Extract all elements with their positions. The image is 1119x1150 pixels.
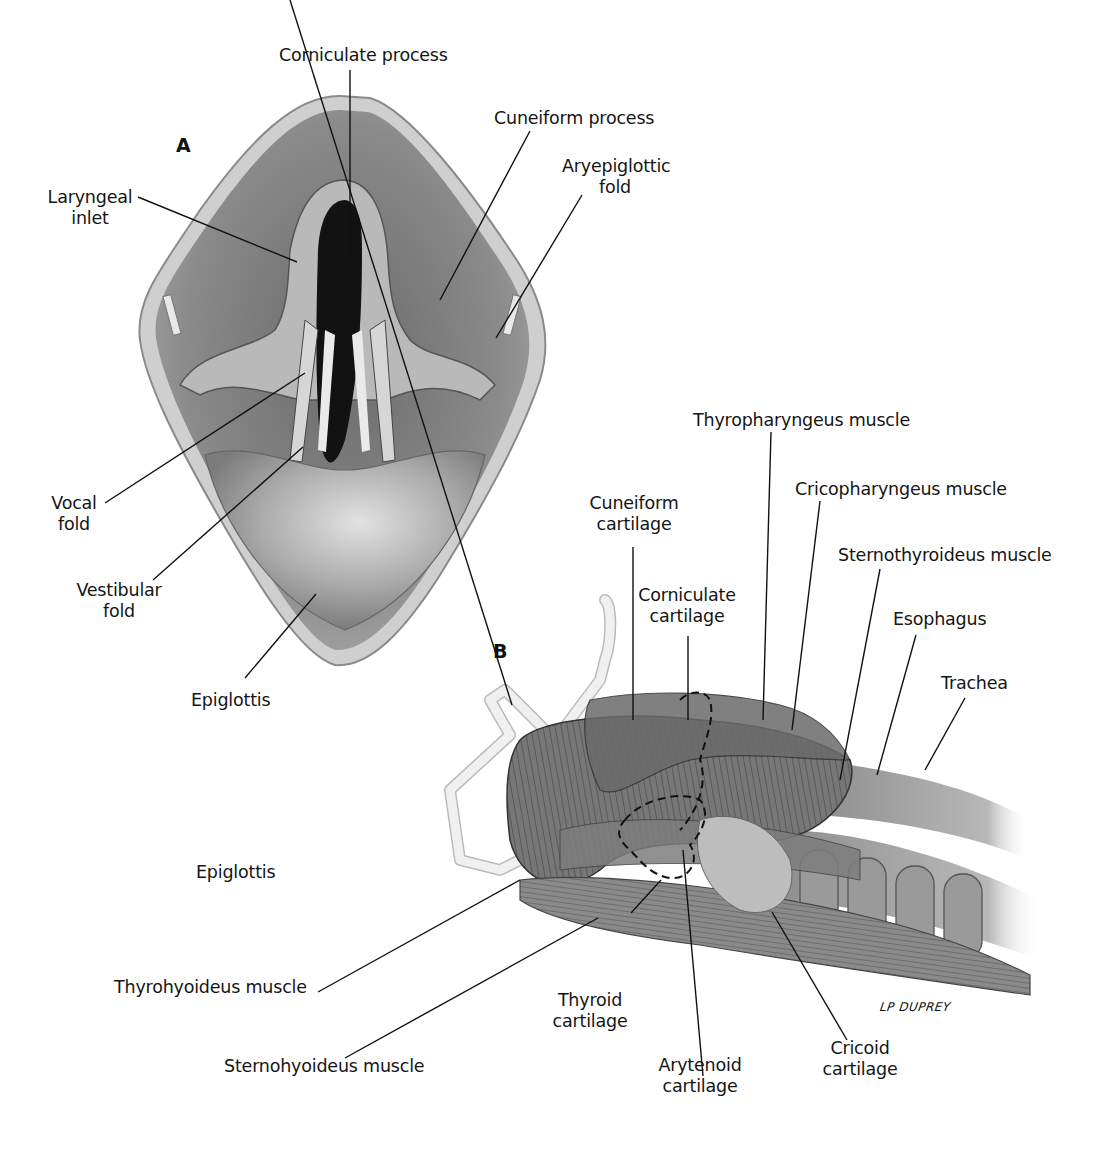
label-vocal-fold-line1: Vocal [46, 493, 102, 514]
label-epiglottis-a: Epiglottis [191, 690, 270, 711]
label-corniculate-cartilage: Corniculate cartilage [631, 585, 743, 627]
label-aryepiglottic-fold: Aryepiglottic fold [562, 156, 668, 198]
label-corniculate-process: Corniculate process [279, 45, 448, 66]
panel-a-drawing [139, 96, 545, 665]
label-laryngeal-inlet-line1: Laryngeal [46, 187, 134, 208]
label-epiglottis-b: Epiglottis [196, 862, 275, 883]
label-cricoid-cartilage-line2: cartilage [820, 1059, 900, 1080]
panel-b-drawing [450, 600, 1040, 995]
label-arytenoid-cartilage: Arytenoid cartilage [650, 1055, 750, 1097]
label-cuneiform-process: Cuneiform process [494, 108, 654, 129]
label-vocal-fold-line2: fold [46, 514, 102, 535]
label-vestibular-fold-line2: fold [73, 601, 165, 622]
label-thyroid-cartilage-line2: cartilage [550, 1011, 630, 1032]
label-sternohyoideus-muscle: Sternohyoideus muscle [224, 1056, 424, 1077]
label-cricopharyngeus-muscle: Cricopharyngeus muscle [795, 479, 1007, 500]
label-vestibular-fold: Vestibular fold [73, 580, 165, 622]
label-vestibular-fold-line1: Vestibular [73, 580, 165, 601]
panel-a-letter: A [176, 134, 191, 156]
label-aryepiglottic-fold-line2: fold [562, 177, 668, 198]
label-aryepiglottic-fold-line1: Aryepiglottic [562, 156, 668, 177]
label-corniculate-cartilage-line2: cartilage [631, 606, 743, 627]
label-thyroid-cartilage-line1: Thyroid [550, 990, 630, 1011]
label-corniculate-cartilage-line1: Corniculate [631, 585, 743, 606]
label-vocal-fold: Vocal fold [46, 493, 102, 535]
label-cricoid-cartilage-line1: Cricoid [820, 1038, 900, 1059]
label-cuneiform-cartilage: Cuneiform cartilage [584, 493, 684, 535]
label-sternothyroideus-muscle: Sternothyroideus muscle [838, 545, 1052, 566]
label-arytenoid-cartilage-line2: cartilage [650, 1076, 750, 1097]
label-cricoid-cartilage: Cricoid cartilage [820, 1038, 900, 1080]
label-thyroid-cartilage: Thyroid cartilage [550, 990, 630, 1032]
label-arytenoid-cartilage-line1: Arytenoid [650, 1055, 750, 1076]
label-cuneiform-cartilage-line1: Cuneiform [584, 493, 684, 514]
label-trachea: Trachea [941, 673, 1008, 694]
label-thyrohyoideus-muscle: Thyrohyoideus muscle [114, 977, 307, 998]
panel-b-letter: B [493, 640, 507, 662]
label-laryngeal-inlet-line2: inlet [46, 208, 134, 229]
artist-signature: LP DUPREY [879, 1000, 952, 1014]
label-esophagus: Esophagus [893, 609, 986, 630]
label-cuneiform-cartilage-line2: cartilage [584, 514, 684, 535]
label-thyropharyngeus-muscle: Thyropharyngeus muscle [693, 410, 910, 431]
label-laryngeal-inlet: Laryngeal inlet [46, 187, 134, 229]
